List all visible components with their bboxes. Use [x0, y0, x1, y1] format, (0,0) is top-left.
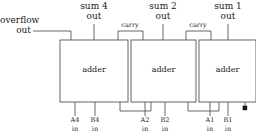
input-label-A2-in: in [135, 126, 155, 133]
input-label-B4-in: in [85, 126, 105, 133]
sum-4-out-label-line2: out [69, 12, 119, 21]
sum-2-out-label-line1: sum 2 [138, 2, 188, 11]
sum-4-out-label-line1: sum 4 [69, 2, 119, 11]
sum-1-out-label-line1: sum 1 [203, 2, 253, 11]
input-label-B2: B2 [155, 117, 175, 124]
carry-wire-4-2-top [118, 31, 143, 40]
input-label-B1: B1 [218, 117, 238, 124]
input-label-A1: A1 [200, 117, 220, 124]
input-label-B1-in: in [218, 126, 238, 133]
input-label-A4-in: in [65, 126, 85, 133]
input-label-A2: A2 [135, 117, 155, 124]
adder-label-1: adder [199, 66, 256, 74]
input-label-A1-in: in [200, 126, 220, 133]
carry-label-4-to-2: carry [112, 22, 148, 29]
carry-wire-2-1-top [186, 31, 211, 40]
sum-1-out-label-line2: out [203, 12, 253, 21]
input-label-B2-in: in [155, 126, 175, 133]
carry-in-ground-terminal-icon [243, 106, 248, 111]
carry-wire-2-1-bottom [188, 102, 219, 111]
carry-wire-4-2-bottom [120, 102, 151, 111]
overflow-out-label-line1: overflow [0, 16, 31, 25]
adder-label-4: adder [60, 66, 128, 74]
input-label-B4: B4 [85, 117, 105, 124]
input-label-A4: A4 [65, 117, 85, 124]
adder-label-2: adder [131, 66, 196, 74]
carry-label-2-to-1: carry [180, 22, 216, 29]
overflow-wire [33, 31, 71, 40]
circuit-diagram: adder adder adder sum 4 out sum 2 out su… [0, 0, 256, 139]
overflow-out-label-line2: out [0, 26, 31, 35]
sum-2-out-label-line2: out [138, 12, 188, 21]
